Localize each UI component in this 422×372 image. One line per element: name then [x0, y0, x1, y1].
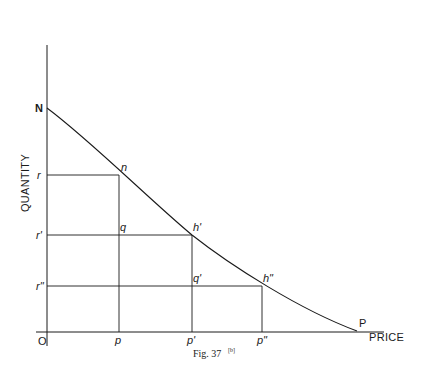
label-q-prime: q'	[193, 272, 202, 284]
label-n: n	[121, 161, 127, 173]
label-origin: O	[38, 335, 47, 347]
demand-curve-diagram: N P O n h' h" q q' r r' r" p p' p" PRICE…	[0, 0, 422, 372]
label-r: r	[37, 169, 42, 181]
x-axis-title: PRICE	[369, 331, 404, 343]
label-r-double-prime: r"	[36, 280, 45, 292]
label-p-prime: p'	[186, 334, 196, 346]
label-p-double-prime: p"	[256, 334, 268, 346]
label-h-double-prime: h"	[263, 272, 274, 284]
label-h-prime: h'	[193, 221, 202, 233]
label-N: N	[35, 102, 43, 114]
figure-caption: Fig. 37	[193, 348, 221, 359]
y-axis-title: QUANTITY	[19, 154, 31, 212]
label-q: q	[120, 221, 127, 233]
demand-curve	[47, 108, 357, 331]
label-p: p	[114, 334, 121, 346]
label-P: P	[359, 317, 366, 329]
label-r-prime: r'	[36, 229, 43, 241]
figure-caption-superscript: [b]	[228, 347, 235, 354]
